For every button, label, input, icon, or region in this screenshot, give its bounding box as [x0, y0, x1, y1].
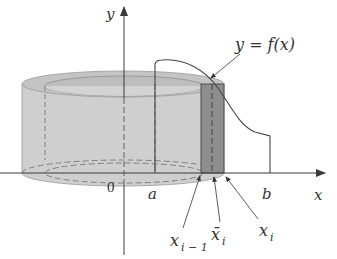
b-label: b	[262, 185, 272, 203]
origin-label: 0	[107, 179, 115, 195]
svg-text:x: x	[170, 231, 179, 250]
function-label: y = f(x)	[234, 35, 295, 54]
svg-text:i − 1: i − 1	[181, 241, 208, 254]
svg-text:i: i	[222, 235, 226, 248]
a-label: a	[148, 185, 157, 203]
y-axis-label: y	[105, 5, 115, 23]
x-bar-label: x̄ i	[211, 225, 226, 248]
shell-method-diagram: y x 0 a b y = f(x) x i − 1 x̄ i x i	[0, 0, 337, 259]
x-axis-label: x	[314, 186, 323, 204]
representative-strip	[201, 84, 224, 173]
x-i-label: x i	[259, 221, 274, 244]
svg-text:x̄: x̄	[211, 225, 220, 244]
svg-text:i: i	[270, 231, 274, 244]
x-prev-label: x i − 1	[170, 231, 208, 254]
svg-text:x: x	[259, 221, 268, 240]
